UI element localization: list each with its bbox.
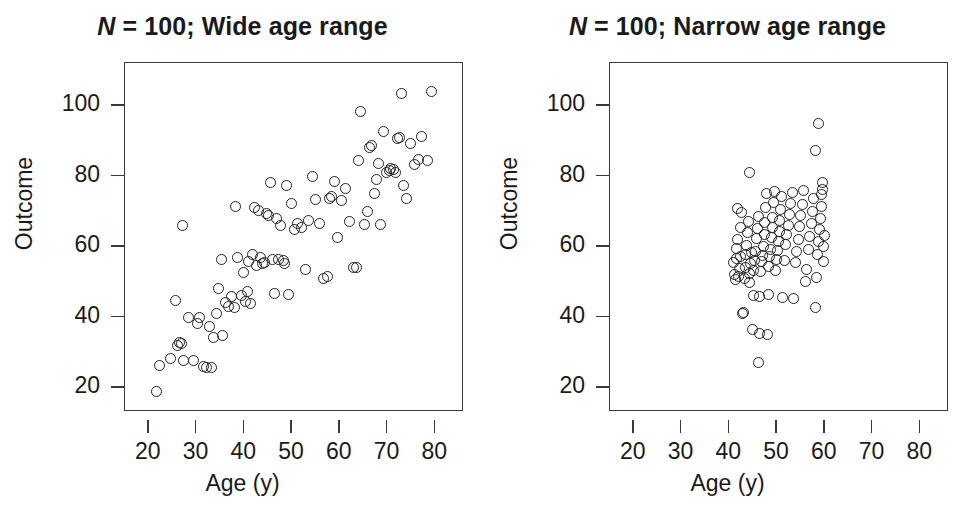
data-point — [795, 210, 806, 221]
x-tick-label: 80 — [404, 438, 464, 465]
panel-title-narrow-rest: = 100; Narrow age range — [587, 12, 886, 40]
data-point — [242, 286, 253, 297]
y-tick-label: 100 — [62, 90, 100, 117]
data-point — [818, 241, 829, 252]
y-tick-mark — [596, 316, 609, 318]
y-axis-label-left: Outcome — [11, 157, 38, 250]
data-point — [332, 232, 343, 243]
x-tick-mark — [871, 420, 873, 433]
data-point — [401, 193, 412, 204]
data-point — [322, 271, 333, 282]
y-tick-mark — [111, 245, 124, 247]
panel-wide-age-range: N = 100; Wide age range Outcome 20406080… — [0, 0, 485, 522]
panel-title-wide: N = 100; Wide age range — [0, 12, 485, 41]
data-point — [787, 187, 798, 198]
y-tick-label: 40 — [559, 302, 585, 329]
y-tick-mark — [111, 175, 124, 177]
data-point — [176, 338, 187, 349]
data-point — [232, 252, 243, 263]
data-point — [813, 118, 824, 129]
data-point — [378, 126, 389, 137]
x-tick-mark — [195, 420, 197, 433]
y-tick-mark — [596, 386, 609, 388]
data-point — [398, 180, 409, 191]
data-point — [359, 219, 370, 230]
y-tick-label: 60 — [559, 231, 585, 258]
data-point — [816, 201, 827, 212]
y-tick-mark — [111, 104, 124, 106]
data-point — [154, 360, 165, 371]
x-tick-mark — [775, 420, 777, 433]
data-point — [217, 330, 228, 341]
x-tick-mark — [434, 420, 436, 433]
x-tick-mark — [338, 420, 340, 433]
y-tick-mark — [111, 386, 124, 388]
x-tick-label: 80 — [889, 438, 949, 465]
data-point — [353, 155, 364, 166]
data-point — [344, 216, 355, 227]
data-point — [738, 307, 749, 318]
data-point — [770, 265, 781, 276]
data-point — [279, 258, 290, 269]
y-tick-label: 80 — [559, 161, 585, 188]
data-point — [797, 199, 808, 210]
data-point — [300, 264, 311, 275]
data-point — [286, 198, 297, 209]
data-point — [811, 272, 822, 283]
data-point — [375, 219, 386, 230]
panel-title-wide-rest: = 100; Wide age range — [115, 12, 387, 40]
data-point — [269, 288, 280, 299]
data-point — [793, 234, 804, 245]
data-point — [177, 220, 188, 231]
data-point — [314, 218, 325, 229]
data-point — [777, 292, 788, 303]
x-tick-mark — [243, 420, 245, 433]
data-point — [303, 215, 314, 226]
data-point — [426, 86, 437, 97]
data-point — [783, 220, 794, 231]
data-point — [170, 295, 181, 306]
y-tick-label: 60 — [74, 231, 100, 258]
data-point — [283, 289, 294, 300]
data-point — [194, 312, 205, 323]
data-point — [206, 362, 217, 373]
data-point — [785, 198, 796, 209]
data-point — [229, 302, 240, 313]
y-tick-label: 20 — [559, 372, 585, 399]
data-point — [238, 267, 249, 278]
data-point — [390, 167, 401, 178]
data-point — [790, 257, 801, 268]
data-point — [351, 262, 362, 273]
data-point — [422, 155, 433, 166]
data-point — [753, 357, 764, 368]
panel-narrow-age-range: N = 100; Narrow age range Outcome 204060… — [485, 0, 970, 522]
data-point — [204, 321, 215, 332]
plot-area-narrow — [609, 62, 948, 411]
y-tick-label: 80 — [74, 161, 100, 188]
x-tick-mark — [632, 420, 634, 433]
y-tick-label: 100 — [547, 90, 585, 117]
y-tick-label: 20 — [74, 372, 100, 399]
y-tick-label: 40 — [74, 302, 100, 329]
data-point — [211, 308, 222, 319]
data-point — [817, 184, 828, 195]
y-tick-mark — [596, 175, 609, 177]
data-point — [394, 132, 405, 143]
data-point — [326, 191, 337, 202]
plot-area-wide — [124, 62, 463, 411]
scatter-plot-figure: N = 100; Wide age range Outcome 20406080… — [0, 0, 971, 522]
data-point — [815, 213, 826, 224]
x-tick-mark — [147, 420, 149, 433]
data-point — [165, 353, 176, 364]
data-point — [762, 329, 773, 340]
data-point — [281, 180, 292, 191]
data-point — [780, 239, 791, 250]
data-point — [275, 220, 286, 231]
data-point — [744, 167, 755, 178]
x-tick-mark — [728, 420, 730, 433]
data-point — [340, 183, 351, 194]
data-point — [798, 185, 809, 196]
data-point — [188, 355, 199, 366]
data-point — [307, 171, 318, 182]
data-point — [230, 201, 241, 212]
